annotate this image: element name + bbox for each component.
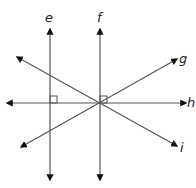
line-label-g: g xyxy=(179,52,187,65)
line-label-h: h xyxy=(187,96,195,109)
diagram-canvas xyxy=(0,0,196,188)
line-i xyxy=(17,57,177,146)
line-label-e: e xyxy=(45,11,53,24)
line-label-i: i xyxy=(180,141,184,154)
right-angle-mark-e-h xyxy=(50,96,57,103)
line-label-f: f xyxy=(97,11,102,24)
